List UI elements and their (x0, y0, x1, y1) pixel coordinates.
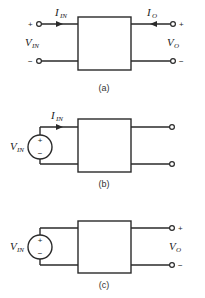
output-top-terminal (170, 125, 175, 130)
input-minus-terminal (37, 59, 42, 64)
output-current-subscript: O (152, 12, 157, 20)
output-current-arrow-icon (150, 21, 157, 27)
input-current-subscript: IN (55, 115, 63, 123)
output-minus-terminal (171, 59, 176, 64)
two-port-box (78, 221, 131, 273)
output-plus-sign: + (179, 20, 184, 29)
output-voltage-subscript: O (174, 42, 179, 50)
output-bottom-terminal (170, 162, 175, 167)
source-minus-sign: − (38, 249, 43, 258)
output-voltage-subscript: O (176, 246, 181, 254)
source-plus-sign: + (38, 136, 43, 145)
input-current-subscript: IN (59, 12, 67, 20)
input-voltage-subscript: IN (31, 42, 39, 50)
source-minus-sign: − (38, 149, 43, 158)
two-port-network-diagrams: + − + − I IN I O V IN V O (a) + − I IN V… (0, 0, 205, 298)
output-minus-sign: − (179, 57, 184, 66)
source-voltage-subscript: IN (16, 246, 24, 254)
output-plus-sign: + (178, 224, 183, 233)
diagram-a: + − + − I IN I O V IN V O (a) (25, 6, 184, 93)
two-port-box (78, 119, 131, 172)
source-plus-sign: + (38, 236, 43, 245)
output-minus-terminal (170, 263, 175, 268)
diagram-c: + − + − V IN V O (c) (10, 221, 183, 290)
caption-c: (c) (99, 280, 110, 290)
input-plus-terminal (37, 22, 42, 27)
input-plus-sign: + (28, 20, 33, 29)
output-plus-terminal (171, 22, 176, 27)
caption-b: (b) (99, 179, 110, 189)
output-minus-sign: − (178, 261, 183, 270)
two-port-box (78, 17, 131, 70)
diagram-b: + − I IN V IN (b) (10, 109, 174, 189)
caption-a: (a) (99, 83, 110, 93)
input-current-arrow-icon (56, 21, 63, 27)
input-minus-sign: − (28, 57, 33, 66)
input-current-arrow-icon (56, 124, 63, 130)
source-voltage-subscript: IN (16, 146, 24, 154)
output-plus-terminal (170, 226, 175, 231)
